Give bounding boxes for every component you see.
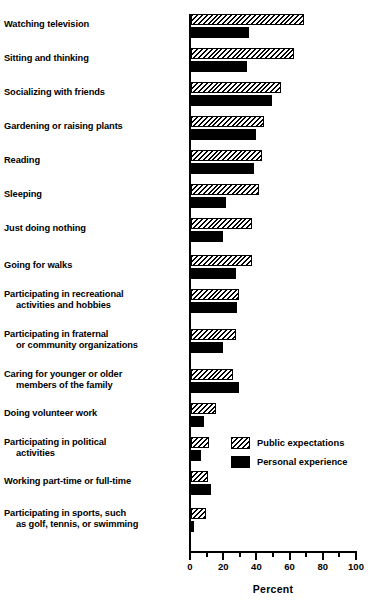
category-label-line: members of the family: [4, 380, 178, 392]
legend-item-public-expectations: Public expectations: [231, 436, 371, 455]
bar-personal-experience: [191, 450, 201, 461]
bar-public-expectations: [191, 329, 236, 340]
bar-personal-experience: [191, 231, 223, 242]
bar-public-expectations: [191, 116, 264, 127]
category-label: Participating in recreationalactivities …: [4, 289, 178, 312]
category-label-line: Sleeping: [4, 189, 42, 199]
x-axis-title: Percent: [189, 583, 357, 595]
x-axis-tick: [322, 553, 324, 560]
category-label-line: Sitting and thinking: [4, 53, 89, 63]
category-label: Watching television: [4, 19, 178, 31]
category-label-line: Working part-time or full-time: [4, 476, 131, 486]
bar-public-expectations: [191, 150, 262, 161]
legend-swatch-solid-icon: [231, 456, 250, 468]
category-label: Doing volunteer work: [4, 408, 178, 420]
bar-personal-experience: [191, 416, 204, 427]
chart-legend: Public expectations Personal experience: [231, 436, 371, 474]
legend-swatch-hatched-icon: [231, 437, 250, 449]
x-axis-tick: [255, 553, 257, 560]
category-label-line: Caring for younger or older: [4, 369, 122, 379]
x-axis-minor-tick: [239, 553, 241, 557]
bar-personal-experience: [191, 302, 237, 313]
bar-public-expectations: [191, 218, 252, 229]
x-axis-minor-tick: [272, 553, 274, 557]
category-label-line: Gardening or raising plants: [4, 121, 123, 131]
category-label: Going for walks: [4, 260, 178, 272]
bar-public-expectations: [191, 403, 216, 414]
bar-personal-experience: [191, 27, 249, 38]
bar-personal-experience: [191, 521, 194, 532]
category-label-line: Doing volunteer work: [4, 408, 97, 418]
bar-public-expectations: [191, 369, 233, 380]
x-axis-tick-label: 40: [251, 561, 262, 572]
x-axis-tick: [289, 553, 291, 560]
x-axis: 020406080100: [189, 551, 359, 552]
category-labels: Watching televisionSitting and thinkingS…: [0, 0, 186, 545]
bar-personal-experience: [191, 163, 254, 174]
category-label: Participating in sports, suchas golf, te…: [4, 508, 178, 531]
bar-public-expectations: [191, 255, 252, 266]
x-axis-tick-label: 60: [284, 561, 295, 572]
category-label: Participating in fraternalor community o…: [4, 329, 178, 352]
bar-personal-experience: [191, 268, 236, 279]
bar-personal-experience: [191, 95, 272, 106]
category-label: Sitting and thinking: [4, 53, 178, 65]
category-label-line: as golf, tennis, or swimming: [4, 519, 178, 531]
bar-public-expectations: [191, 14, 304, 25]
category-label-line: Socializing with friends: [4, 87, 105, 97]
bar-chart: Watching televisionSitting and thinkingS…: [0, 0, 381, 612]
category-label-line: Participating in sports, such: [4, 508, 126, 518]
x-axis-tick-label: 80: [318, 561, 329, 572]
legend-label: Public expectations: [257, 436, 344, 450]
category-label: Participating in politicalactivities: [4, 437, 178, 460]
x-axis-tick: [222, 553, 224, 560]
category-label: Gardening or raising plants: [4, 121, 178, 133]
x-axis-tick-label: 20: [218, 561, 229, 572]
bar-public-expectations: [191, 82, 281, 93]
bar-personal-experience: [191, 129, 256, 140]
category-label-line: Participating in political: [4, 437, 106, 447]
x-axis-minor-tick: [206, 553, 208, 557]
category-label-line: Watching television: [4, 19, 89, 29]
bar-public-expectations: [191, 184, 259, 195]
bar-public-expectations: [191, 437, 209, 448]
category-label: Working part-time or full-time: [4, 476, 178, 488]
category-label-line: Going for walks: [4, 260, 72, 270]
category-label-line: Just doing nothing: [4, 223, 86, 233]
legend-item-personal-experience: Personal experience: [231, 455, 371, 474]
category-label: Socializing with friends: [4, 87, 178, 99]
x-axis-tick-label: 0: [187, 561, 192, 572]
category-label-line: activities and hobbies: [4, 300, 178, 312]
x-axis-minor-tick: [338, 553, 340, 557]
category-label-line: or community organizations: [4, 340, 178, 352]
category-label-line: activities: [4, 448, 178, 460]
legend-label: Personal experience: [257, 455, 347, 469]
category-label: Just doing nothing: [4, 223, 178, 235]
bar-personal-experience: [191, 382, 239, 393]
category-label-line: Reading: [4, 155, 40, 165]
x-axis-tick: [189, 553, 191, 560]
category-label: Sleeping: [4, 189, 178, 201]
bar-personal-experience: [191, 342, 223, 353]
x-axis-minor-tick: [305, 553, 307, 557]
bar-personal-experience: [191, 61, 247, 72]
bar-public-expectations: [191, 48, 294, 59]
bar-public-expectations: [191, 508, 206, 519]
bar-personal-experience: [191, 197, 226, 208]
bar-public-expectations: [191, 471, 208, 482]
category-label: Reading: [4, 155, 178, 167]
bar-personal-experience: [191, 484, 211, 495]
category-label-line: Participating in recreational: [4, 289, 124, 299]
category-label: Caring for younger or oldermembers of th…: [4, 369, 178, 392]
bar-public-expectations: [191, 289, 239, 300]
category-label-line: Participating in fraternal: [4, 329, 108, 339]
x-axis-tick: [355, 553, 357, 560]
x-axis-tick-label: 100: [348, 561, 364, 572]
